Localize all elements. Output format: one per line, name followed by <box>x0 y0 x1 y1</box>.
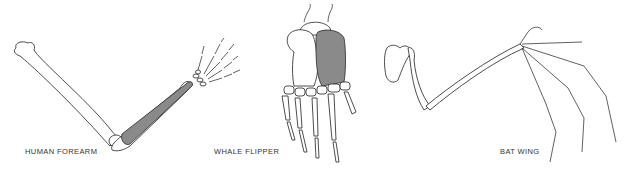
bat-wing-panel: BAT WING <box>370 0 630 177</box>
human-forearm-label: HUMAN FOREARM <box>25 147 97 156</box>
whale-flipper-label: WHALE FLIPPER <box>214 147 279 156</box>
bat-wing-label: BAT WING <box>500 147 540 156</box>
homology-diagram: HUMAN FOREARM <box>0 0 630 177</box>
whale-flipper-panel: WHALE FLIPPER <box>200 0 380 177</box>
